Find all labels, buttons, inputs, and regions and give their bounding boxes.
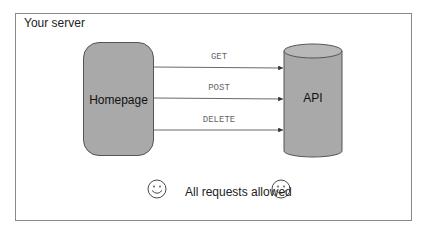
post-label: POST [179,83,259,93]
get-label: GET [179,52,259,62]
smiley-face-icon [148,180,166,198]
post-arrow [154,98,283,99]
footer-text: All requests allowed [185,185,292,199]
api-label: API [284,91,342,105]
get-arrow [154,67,283,68]
delete-label: DELETE [179,115,259,125]
